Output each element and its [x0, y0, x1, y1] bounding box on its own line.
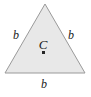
side-label-right: b: [64, 29, 78, 41]
center-point-marker-icon: [42, 51, 45, 54]
side-label-left: b: [9, 29, 23, 41]
geometry-figure: b b b C: [0, 0, 91, 97]
side-label-bottom: b: [37, 78, 51, 90]
center-label: C: [35, 38, 51, 51]
